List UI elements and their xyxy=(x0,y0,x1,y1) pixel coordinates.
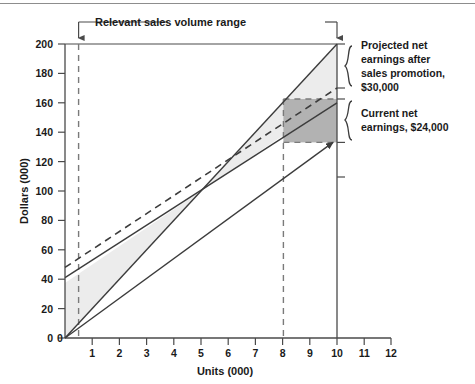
series-total-cost-current xyxy=(65,103,337,278)
projected-earnings-brace xyxy=(345,46,352,86)
current-earnings-line-1: Current net xyxy=(361,107,418,119)
y-tick-80: 80 xyxy=(41,214,53,226)
current-earnings-annotation: Current net earnings, $24,000 xyxy=(361,107,449,133)
series-total-cost-after-promotion xyxy=(65,88,337,267)
relevant-range-label: Relevant sales volume range xyxy=(95,16,246,28)
y-tick-200: 200 xyxy=(35,38,53,50)
y-axis-title: Dollars (000) xyxy=(18,158,30,224)
x-axis-tick-labels: 0 1 2 3 4 5 6 7 8 9 10 11 12 xyxy=(57,332,397,359)
x-tick-3: 3 xyxy=(144,347,150,359)
x-tick-6: 6 xyxy=(225,347,231,359)
chart-canvas: 0 20 40 60 80 100 120 140 160 180 200 xyxy=(0,0,475,384)
y-tick-160: 160 xyxy=(35,97,53,109)
projected-earnings-line-4: $30,000 xyxy=(361,81,399,93)
x-axis-ticks xyxy=(92,338,391,345)
y-tick-0: 0 xyxy=(47,332,53,344)
x-tick-10: 10 xyxy=(331,347,343,359)
projected-earnings-annotation: Projected net earnings after sales promo… xyxy=(361,39,445,93)
y-axis-ticks xyxy=(58,44,65,338)
y-tick-60: 60 xyxy=(41,244,53,256)
x-tick-0: 0 xyxy=(57,332,63,344)
y-tick-120: 120 xyxy=(35,156,53,168)
current-earnings-line-2: earnings, $24,000 xyxy=(361,121,449,133)
x-tick-12: 12 xyxy=(385,347,397,359)
header-divider xyxy=(0,3,475,4)
x-tick-4: 4 xyxy=(171,347,177,359)
y-tick-180: 180 xyxy=(35,67,53,79)
x-tick-8: 8 xyxy=(280,347,286,359)
x-tick-5: 5 xyxy=(198,347,204,359)
x-tick-1: 1 xyxy=(89,347,95,359)
projected-earnings-line-3: sales promotion, xyxy=(361,67,445,79)
projected-earnings-line-2: earnings after xyxy=(361,53,430,65)
x-tick-9: 9 xyxy=(307,347,313,359)
x-tick-2: 2 xyxy=(116,347,122,359)
y-tick-40: 40 xyxy=(41,273,53,285)
projected-earnings-line-1: Projected net xyxy=(361,39,428,51)
x-tick-7: 7 xyxy=(252,347,258,359)
x-axis-title: Units (000) xyxy=(197,365,254,377)
current-earnings-brace xyxy=(345,101,352,140)
y-tick-100: 100 xyxy=(35,185,53,197)
y-axis-tick-labels: 0 20 40 60 80 100 120 140 160 180 200 xyxy=(35,38,53,344)
y-tick-140: 140 xyxy=(35,126,53,138)
cost-volume-profit-figure: 0 20 40 60 80 100 120 140 160 180 200 xyxy=(0,0,475,384)
y-tick-20: 20 xyxy=(41,303,53,315)
right-axis-bracket-ticks xyxy=(337,44,345,177)
x-tick-11: 11 xyxy=(359,347,370,359)
